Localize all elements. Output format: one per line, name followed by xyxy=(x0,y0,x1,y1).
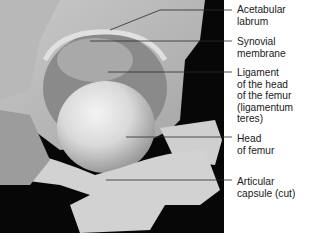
label-ligament-head-femur: Ligament of the head of the femur (ligam… xyxy=(237,67,293,125)
leader-line-acetabular-labrum xyxy=(110,10,232,30)
label-articular-capsule: Articular capsule (cut) xyxy=(237,176,295,199)
label-acetabular-labrum: Acetabular labrum xyxy=(237,4,286,27)
label-head-of-femur: Head of femur xyxy=(237,133,274,156)
label-synovial-membrane: Synovial membrane xyxy=(237,36,286,59)
